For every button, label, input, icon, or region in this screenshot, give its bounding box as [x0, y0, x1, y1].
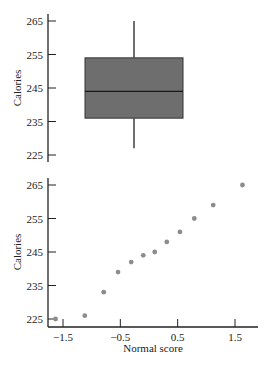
data-point [211, 203, 216, 208]
boxplot-y-axis-title: Calories [11, 70, 23, 107]
data-point [164, 240, 169, 245]
box [85, 21, 183, 148]
data-point [178, 230, 183, 235]
y-tick-label: 235 [27, 280, 44, 292]
scatter-panel: 265255245235225 −1.5−0.50.51.5 Calories … [11, 178, 258, 354]
scatter-x-axis-title: Normal score [123, 342, 183, 354]
data-point [101, 290, 106, 295]
y-tick-label: 255 [27, 49, 44, 61]
data-point [116, 270, 121, 275]
data-point [82, 313, 87, 318]
x-tick-label: −1.5 [53, 331, 73, 343]
data-point [192, 216, 197, 221]
data-point [240, 183, 245, 188]
scatter-y-ticks: 265255245235225 [27, 179, 57, 325]
y-tick-label: 235 [27, 116, 44, 128]
data-point [152, 250, 157, 255]
y-tick-label: 245 [27, 246, 44, 258]
x-tick-label: 1.5 [228, 331, 242, 343]
y-tick-label: 265 [27, 179, 44, 191]
y-tick-label: 265 [27, 15, 44, 27]
boxplot-y-ticks: 265255245235225 [27, 15, 57, 161]
data-point [129, 260, 134, 265]
boxplot-panel: 265255245235225 Calories [11, 14, 183, 162]
chart-figure: 265255245235225 Calories 265255245235225… [0, 0, 271, 375]
box-iqr [85, 58, 183, 118]
scatter-x-ticks: −1.5−0.50.51.5 [53, 319, 242, 343]
y-tick-label: 245 [27, 82, 44, 94]
y-tick-label: 225 [27, 313, 44, 325]
scatter-y-axis-title: Calories [11, 234, 23, 271]
y-tick-label: 225 [27, 149, 44, 161]
data-point [53, 317, 58, 322]
scatter-points [53, 183, 245, 322]
y-tick-label: 255 [27, 213, 44, 225]
data-point [141, 253, 146, 258]
